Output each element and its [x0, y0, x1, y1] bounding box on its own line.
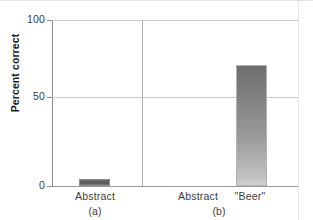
- y-axis-title: Percent correct: [9, 23, 21, 123]
- page-edge-top-rule: [0, 0, 313, 1]
- bar-panel-b-beer: [236, 65, 267, 186]
- y-tick-label-100: 100: [5, 13, 45, 25]
- x-tick-label-panel-b-beer: "Beer": [217, 190, 283, 202]
- panel-caption-b: (b): [186, 205, 252, 217]
- chart-figure: Percent correct 100 50 0 Abstract Abstra…: [0, 0, 313, 220]
- page-edge-right-rule: [298, 0, 299, 220]
- gridline-100: [52, 20, 298, 21]
- panel-caption-a: (a): [62, 205, 128, 217]
- bar-panel-a-abstract: [79, 179, 110, 186]
- x-tick-label-panel-a-abstract: Abstract: [62, 190, 128, 202]
- y-tick-label-0: 0: [5, 179, 45, 191]
- panel-divider: [142, 20, 143, 186]
- plot-area: [52, 20, 298, 186]
- x-axis-spine: [52, 186, 298, 187]
- y-tick-label-50: 50: [5, 90, 45, 102]
